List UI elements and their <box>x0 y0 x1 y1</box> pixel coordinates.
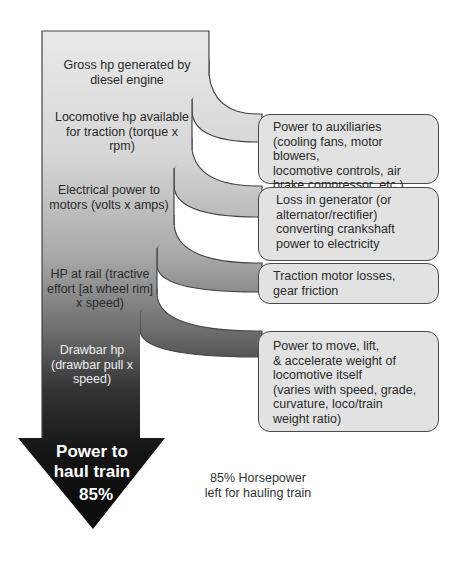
loss-text: (varies with speed, grade, <box>273 383 432 398</box>
loss-text: (cooling fans, motor blowers, <box>273 135 432 164</box>
loss-box-locomotive-weight: Power to move, lift, & accelerate weight… <box>258 331 439 432</box>
loss-text: Traction motor losses, <box>273 269 432 284</box>
caption: 85% Horsepower left for hauling train <box>188 471 328 501</box>
caption-line2: left for hauling train <box>188 486 328 501</box>
output-label-line2: haul train <box>42 462 142 482</box>
branch-loco-weight <box>140 290 262 357</box>
loss-text: alternator/rectifier) <box>276 208 432 223</box>
stage-label-gross-hp: Gross hp generated by diesel engine <box>52 58 202 87</box>
loss-text: Power to auxiliaries <box>273 120 432 135</box>
loss-text: gear friction <box>273 284 432 299</box>
loss-text: converting crankshaft <box>276 222 432 237</box>
loss-text: & accelerate weight of <box>273 354 432 369</box>
loss-text: weight ratio) <box>273 412 432 427</box>
loss-text: curvature, loco/train <box>273 397 432 412</box>
output-label-line1: Power to <box>42 442 142 462</box>
loss-box-auxiliaries: Power to auxiliaries (cooling fans, moto… <box>258 114 439 184</box>
loss-box-traction-motor: Traction motor losses, gear friction <box>258 263 439 304</box>
loss-text: power to electricity <box>276 237 432 252</box>
stage-label-locomotive-hp: Locomotive hp available for traction (to… <box>52 110 192 154</box>
output-percent: 85% <box>56 485 136 505</box>
caption-line1: 85% Horsepower <box>188 471 328 486</box>
stage-label-electrical-power: Electrical power to motors (volts x amps… <box>46 183 172 212</box>
loss-text: Loss in generator (or <box>276 193 432 208</box>
loss-text: locomotive controls, air <box>273 164 432 179</box>
loss-box-generator: Loss in generator (or alternator/rectifi… <box>258 187 439 261</box>
stage-label-drawbar-hp: Drawbar hp (drawbar pull x speed) <box>48 343 136 387</box>
loss-text: locomotive itself <box>273 368 432 383</box>
loss-text: Power to move, lift, <box>273 339 432 354</box>
output-label: Power to haul train <box>42 442 142 482</box>
stage-label-hp-at-rail: HP at rail (tractive effort [at wheel ri… <box>44 267 156 311</box>
